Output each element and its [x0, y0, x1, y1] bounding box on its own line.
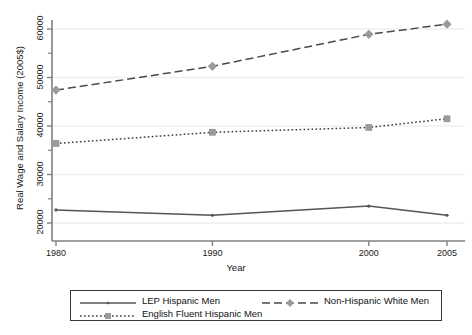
data-point-marker [107, 301, 110, 304]
data-point-marker [209, 129, 216, 136]
data-point-marker [53, 140, 60, 147]
legend-item-1: LEP Hispanic Men [79, 294, 220, 307]
data-point-marker [286, 298, 294, 306]
legend-key-icon [79, 295, 137, 307]
series-1 [54, 204, 448, 216]
data-point-marker [54, 208, 57, 211]
series-line [56, 206, 447, 215]
legend-key-icon [261, 295, 319, 307]
legend-key-icon [79, 308, 137, 320]
x-tick-label: 2005 [422, 248, 472, 258]
y-tick-label: 40000 [35, 104, 45, 146]
y-tick-label: 60000 [35, 7, 45, 49]
legend-label: Non-Hispanic White Men [324, 295, 429, 306]
data-point-marker [364, 30, 373, 39]
data-point-marker [367, 204, 370, 207]
legend-label: LEP Hispanic Men [142, 295, 220, 306]
data-point-marker [442, 20, 451, 29]
data-point-marker [365, 124, 372, 131]
plot-area [0, 0, 472, 290]
data-point-marker [445, 214, 448, 217]
series-line [56, 24, 447, 90]
y-tick-label: 20000 [35, 201, 45, 243]
chart-legend: LEP Hispanic MenNon-Hispanic White MenEn… [70, 290, 442, 321]
x-tick-label: 1990 [187, 248, 237, 258]
legend-item-3: English Fluent Hispanic Men [79, 307, 262, 320]
legend-label: English Fluent Hispanic Men [142, 308, 262, 319]
data-point-marker [444, 115, 451, 122]
x-tick-label: 1980 [31, 248, 81, 258]
data-point-marker [105, 313, 111, 319]
series-2 [51, 20, 451, 95]
y-tick-label: 50000 [35, 56, 45, 98]
x-tick-label: 2000 [344, 248, 394, 258]
series-3 [53, 115, 451, 147]
data-point-marker [211, 214, 214, 217]
legend-item-2: Non-Hispanic White Men [261, 294, 429, 307]
series-line [56, 119, 447, 144]
y-tick-label: 30000 [35, 153, 45, 195]
data-point-marker [208, 62, 217, 71]
chart-figure: Real Wage and Salary Income (2005$) Year… [0, 0, 472, 335]
